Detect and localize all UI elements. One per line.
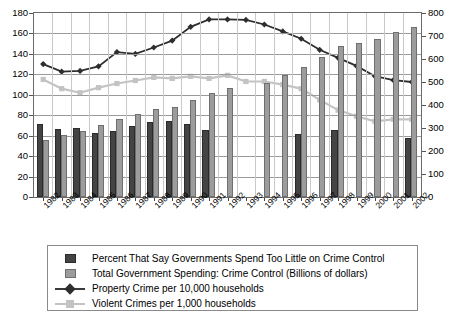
y-axis-right-tick: [422, 59, 426, 60]
bar-total-spending-1996: [301, 67, 307, 197]
category-gridline: [310, 13, 311, 197]
legend-item-percent-too-little: Percent That Say Governments Spend Too L…: [48, 251, 417, 265]
category-gridline: [292, 13, 293, 197]
bar-total-spending-1991: [209, 93, 215, 197]
bar-total-spending-1986: [116, 119, 122, 197]
legend-item-violent-crime: Violent Crimes per 1,000 households: [48, 296, 417, 310]
y-axis-left-tick-label: 20: [0, 172, 28, 182]
bar-total-spending-2001: [393, 32, 399, 197]
bar-total-spending-2000: [374, 39, 380, 197]
category-gridline: [403, 13, 404, 197]
legend-item-property-crime: Property Crime per 10,000 households: [48, 281, 417, 295]
category-gridline: [218, 13, 219, 197]
category-gridline: [163, 13, 164, 197]
y-axis-left-tick-label: 120: [0, 69, 28, 79]
y-axis-right-tick: [422, 151, 426, 152]
y-axis-right-tick-label: 100: [428, 169, 458, 179]
data-point-marker: [151, 44, 157, 50]
y-axis-right-tick-label: 500: [428, 77, 458, 87]
bar-total-spending-1999: [356, 43, 362, 197]
data-point-marker: [40, 61, 46, 67]
gridline: [34, 54, 421, 55]
data-point-marker: [41, 77, 46, 82]
category-gridline: [145, 13, 146, 197]
y-axis-right-tick: [422, 105, 426, 106]
data-point-marker: [243, 17, 249, 23]
y-axis-right-tick-label: 800: [428, 8, 458, 18]
bar-total-spending-1994: [264, 83, 270, 197]
category-gridline: [52, 13, 53, 197]
bar-total-spending-1990: [190, 100, 196, 197]
bar-total-spending-1989: [172, 107, 178, 197]
category-gridline: [255, 13, 256, 197]
data-point-marker: [151, 75, 156, 80]
data-point-marker: [243, 79, 248, 84]
y-axis-left-tick-label: 80: [0, 110, 28, 120]
data-point-marker: [96, 85, 101, 90]
y-axis-left-tick-label: 60: [0, 131, 28, 141]
y-axis-left-tick-label: 100: [0, 90, 28, 100]
category-gridline: [71, 13, 72, 197]
category-gridline: [89, 13, 90, 197]
data-point-marker: [133, 78, 138, 83]
y-axis-left-tick-label: 160: [0, 28, 28, 38]
data-point-marker: [206, 76, 211, 81]
bar-total-spending-1984: [80, 131, 86, 197]
y-axis-left-tick-label: 40: [0, 151, 28, 161]
y-axis-right-tick-label: 300: [428, 123, 458, 133]
category-gridline: [108, 13, 109, 197]
x-axis-labels: 1982198319841985198619871988198919901991…: [0, 198, 465, 243]
legend-swatch-light-line: [48, 299, 92, 308]
bar-total-spending-2002: [411, 27, 417, 197]
plot-block: 0204060801001201401601800100200300400500…: [0, 0, 465, 200]
legend-label-2: Property Crime per 10,000 households: [92, 283, 264, 294]
bar-total-spending-1992: [227, 88, 233, 197]
y-axis-right-tick-label: 600: [428, 54, 458, 64]
gridline: [34, 33, 421, 34]
y-axis-right-tick: [422, 174, 426, 175]
data-point-marker: [77, 68, 83, 74]
category-gridline: [181, 13, 182, 197]
bar-total-spending-1983: [61, 135, 67, 197]
gridline: [34, 74, 421, 75]
legend-label-3: Violent Crimes per 1,000 households: [92, 298, 256, 309]
bar-total-spending-1997: [319, 57, 325, 197]
data-point-marker: [59, 86, 64, 91]
y-axis-left-tick-label: 180: [0, 8, 28, 18]
data-point-marker: [224, 16, 230, 22]
data-point-marker: [261, 21, 267, 27]
category-gridline: [200, 13, 201, 197]
data-point-marker: [170, 76, 175, 81]
y-axis-right-tick-label: 700: [428, 31, 458, 41]
y-axis-right-tick: [422, 128, 426, 129]
category-gridline: [366, 13, 367, 197]
data-point-marker: [114, 81, 119, 86]
category-gridline: [384, 13, 385, 197]
y-axis-left-tick-label: 140: [0, 49, 28, 59]
category-gridline: [347, 13, 348, 197]
bar-total-spending-1982: [43, 140, 49, 197]
category-gridline: [329, 13, 330, 197]
bar-total-spending-1995: [282, 75, 288, 197]
y-axis-right-tick-label: 400: [428, 100, 458, 110]
y-axis-right-tick-label: 200: [428, 146, 458, 156]
legend-label-1: Total Government Spending: Crime Control…: [92, 268, 368, 279]
legend-item-total-spending: Total Government Spending: Crime Control…: [48, 266, 417, 280]
chart-legend: Percent That Say Governments Spend Too L…: [47, 245, 418, 311]
bar-total-spending-1985: [98, 125, 104, 197]
plot-area: [33, 12, 422, 198]
category-gridline: [274, 13, 275, 197]
legend-swatch-dark-bar: [48, 254, 92, 263]
bar-total-spending-1987: [135, 114, 141, 197]
y-axis-right-tick: [422, 82, 426, 83]
legend-swatch-dark-line: [48, 284, 92, 293]
crime-statistics-chart: 0204060801001201401601800100200300400500…: [0, 0, 465, 316]
category-gridline: [126, 13, 127, 197]
legend-label-0: Percent That Say Governments Spend Too L…: [92, 253, 385, 264]
y-axis-right-tick: [422, 36, 426, 37]
legend-swatch-light-bar: [48, 269, 92, 278]
y-axis-right-tick: [422, 13, 426, 14]
bar-total-spending-1988: [153, 109, 159, 197]
bar-total-spending-1998: [338, 46, 344, 197]
data-point-marker: [206, 16, 212, 22]
